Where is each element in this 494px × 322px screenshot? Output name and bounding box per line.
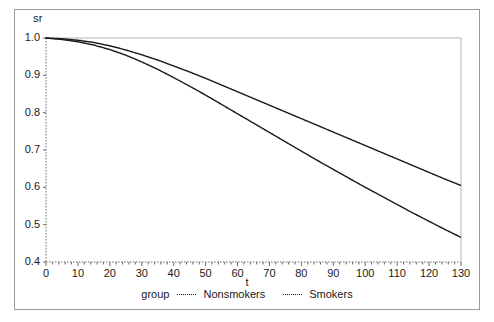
x-tick-label: 80 xyxy=(286,267,316,279)
y-tick-label: 0.8 xyxy=(6,106,40,118)
x-tick-label: 20 xyxy=(95,267,125,279)
legend-key-smokers-icon xyxy=(283,290,302,299)
y-tick-label: 0.5 xyxy=(6,218,40,230)
legend-label-smokers: Smokers xyxy=(309,288,352,300)
x-tick-label: 90 xyxy=(318,267,348,279)
series-line-smokers xyxy=(46,38,461,237)
data-series-layer xyxy=(46,38,461,237)
y-tick-label: 0.9 xyxy=(6,68,40,80)
x-tick-label: 120 xyxy=(414,267,444,279)
x-tick-label: 30 xyxy=(127,267,157,279)
chart-legend: group Nonsmokers Smokers xyxy=(0,288,494,300)
x-tick-label: 40 xyxy=(159,267,189,279)
x-axis-ticks xyxy=(46,262,461,266)
x-tick-label: 60 xyxy=(223,267,253,279)
x-tick-label: 0 xyxy=(31,267,61,279)
series-line-nonsmokers xyxy=(46,38,461,185)
legend-key-nonsmokers-icon xyxy=(177,290,196,299)
x-tick-label: 70 xyxy=(254,267,284,279)
x-tick-label: 130 xyxy=(446,267,476,279)
x-tick-label: 100 xyxy=(350,267,380,279)
survival-plot-figure: sr t 1.00.90.80.70.60.50.4 0102030405060… xyxy=(0,0,494,322)
y-tick-label: 0.6 xyxy=(6,180,40,192)
x-tick-label: 10 xyxy=(63,267,93,279)
x-tick-label: 110 xyxy=(382,267,412,279)
legend-title: group xyxy=(141,288,169,300)
y-tick-label: 0.7 xyxy=(6,143,40,155)
legend-label-nonsmokers: Nonsmokers xyxy=(203,288,265,300)
x-tick-label: 50 xyxy=(191,267,221,279)
y-tick-label: 1.0 xyxy=(6,31,40,43)
y-axis-title: sr xyxy=(33,12,43,24)
y-tick-label: 0.4 xyxy=(6,255,40,267)
